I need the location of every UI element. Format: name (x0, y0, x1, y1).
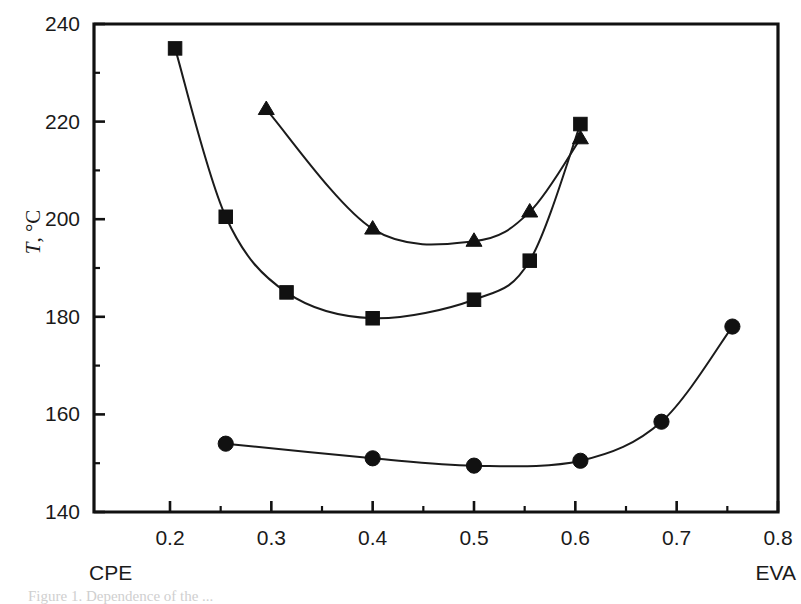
circle-series-marker-1 (365, 451, 380, 466)
circle-series-marker-3 (573, 453, 588, 468)
x-tick-label-0: 0.2 (155, 526, 184, 549)
x-tick-label-4: 0.6 (561, 526, 590, 549)
figure-container: 1401601802002202400.20.30.40.50.60.70.8 … (0, 0, 801, 604)
x-tick-label-2: 0.4 (358, 526, 388, 549)
axes-group (94, 24, 778, 512)
x-tick-label-6: 0.8 (763, 526, 792, 549)
y-tick-label-3: 200 (45, 207, 80, 230)
circle-series-marker-5 (725, 319, 740, 334)
square-series-marker-4 (467, 293, 481, 307)
y-tick-label-0: 140 (45, 500, 80, 523)
circle-series-marker-2 (466, 458, 481, 473)
x-tick-label-3: 0.5 (459, 526, 488, 549)
circle-series-marker-0 (218, 436, 233, 451)
circle-series-line (226, 327, 733, 467)
corner-labels-group: CPEEVA (89, 561, 796, 584)
caption-strip: Figure 1. Dependence of the ... (0, 588, 801, 604)
y-axis-title-unit: , °C (21, 210, 45, 243)
square-series-marker-0 (168, 42, 182, 56)
x-tick-label-1: 0.3 (257, 526, 286, 549)
ticks-group (94, 24, 778, 512)
y-tick-label-1: 160 (45, 402, 80, 425)
chart-canvas: 1401601802002202400.20.30.40.50.60.70.8 … (0, 0, 801, 604)
x-axis-right-endpoint-label: EVA (756, 561, 796, 584)
square-series-marker-6 (574, 117, 588, 131)
triangle-series-marker-1 (365, 221, 381, 235)
square-series-line (175, 48, 580, 318)
x-axis-left-endpoint-label: CPE (89, 561, 132, 584)
triangle-series-marker-4 (572, 130, 588, 144)
y-tick-label-4: 220 (45, 110, 80, 133)
y-tick-label-2: 180 (45, 305, 80, 328)
square-series-marker-5 (523, 254, 537, 268)
plot-frame (94, 24, 778, 512)
square-series (168, 42, 587, 325)
axis-title-group: T, °C (21, 210, 45, 255)
square-series-marker-3 (366, 312, 380, 326)
data-series-group (168, 42, 740, 474)
square-series-marker-1 (219, 210, 233, 224)
x-tick-label-5: 0.7 (662, 526, 691, 549)
y-axis-title: T, °C (21, 210, 45, 255)
circle-series-marker-4 (654, 414, 669, 429)
triangle-series-marker-0 (258, 101, 274, 115)
figure-caption: Figure 1. Dependence of the ... (28, 588, 213, 604)
triangle-series-line (266, 109, 580, 244)
y-tick-label-5: 240 (45, 12, 80, 35)
square-series-marker-2 (280, 286, 294, 300)
tick-labels-group: 1401601802002202400.20.30.40.50.60.70.8 (45, 12, 793, 549)
circle-series (218, 319, 740, 473)
triangle-series (258, 101, 588, 246)
